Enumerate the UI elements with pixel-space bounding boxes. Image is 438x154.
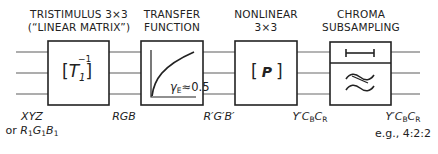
matrix-letter: T	[69, 61, 79, 81]
gamma-value: ≈0.5	[182, 80, 210, 94]
signal-label-rgb: RGB	[106, 110, 142, 124]
title-line: TRISTIMULUS 3×3	[20, 8, 138, 21]
title-line: TRANSFER	[130, 8, 214, 21]
inverse-matrix-symbol: [T−11]	[62, 61, 92, 83]
subscript: 1	[79, 72, 85, 83]
prefix: or	[6, 124, 21, 137]
signal-label-xyz: XYZ or R1G1B1	[2, 110, 62, 141]
stage-title-transfer: TRANSFER FUNCTION	[130, 8, 214, 34]
gamma-symbol: γ	[170, 80, 177, 94]
title-line: SUBSAMPLING	[318, 21, 404, 34]
signal-alt: or R1G1B1	[2, 124, 62, 141]
subsampling-ratio: e.g., 4:2:2	[372, 127, 434, 141]
title-line: NONLINEAR	[226, 8, 306, 21]
title-line: 3×3	[226, 21, 306, 34]
signal-label-rgb-prime: R′G′B′	[196, 110, 242, 124]
signal-name: XYZ	[2, 110, 62, 124]
p-matrix-symbol: [P]	[251, 61, 287, 81]
superscript: −1	[78, 54, 91, 64]
matrix-letter: P	[262, 64, 276, 80]
signal-label-ycbcr: Y′CBCR	[282, 110, 338, 127]
signal-label-ycbcr-subsampled: Y′CBCR e.g., 4:2:2	[372, 110, 434, 141]
transfer-function-box	[141, 41, 203, 105]
stage-title-tristimulus: TRISTIMULUS 3×3 (“LINEAR MATRIX”)	[20, 8, 138, 34]
title-line: FUNCTION	[130, 21, 214, 34]
stage-title-chroma: CHROMA SUBSAMPLING	[318, 8, 404, 34]
gamma-annotation: γE≈0.5	[170, 80, 210, 95]
stage-title-nonlinear: NONLINEAR 3×3	[226, 8, 306, 34]
title-line: (“LINEAR MATRIX”)	[20, 21, 138, 34]
chroma-subsampling-box	[330, 42, 391, 105]
title-line: CHROMA	[318, 8, 404, 21]
